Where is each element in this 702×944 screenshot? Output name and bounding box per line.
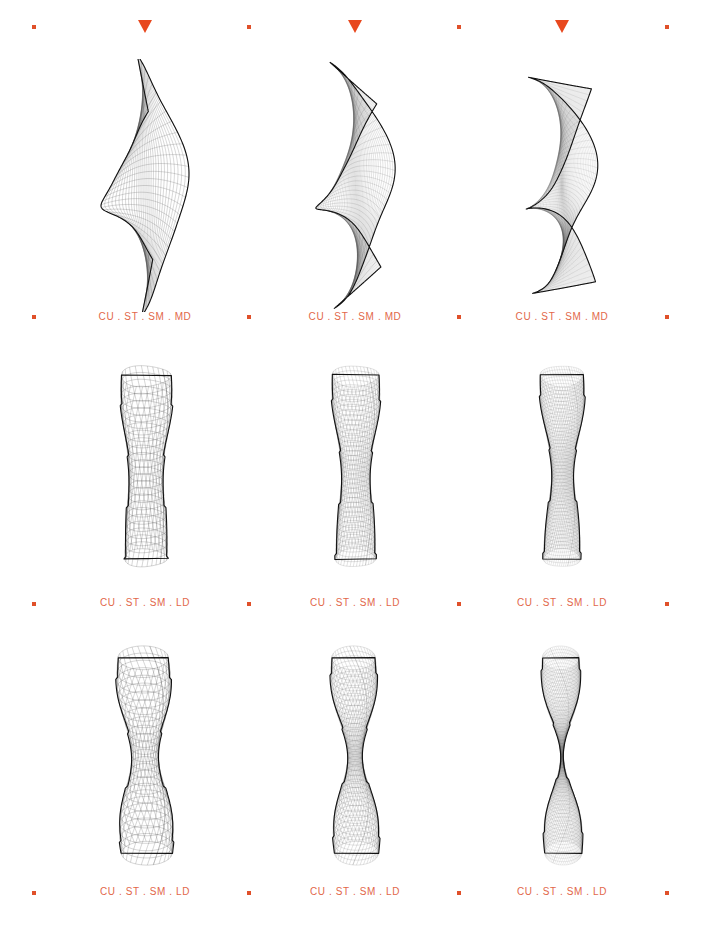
- dot-marker-icon: [32, 25, 36, 29]
- mesh-v-isolines: [331, 645, 379, 864]
- triangle-down-icon: [138, 20, 152, 33]
- mesh-figure-r2-c3: [510, 353, 614, 581]
- mesh-figure-r1-c1: [76, 59, 214, 312]
- dot-marker-icon: [247, 25, 251, 29]
- figure-caption: CU . ST . SM . LD: [310, 886, 400, 897]
- figure-caption: CU . ST . SM . LD: [517, 597, 607, 608]
- dot-marker-icon: [457, 25, 461, 29]
- figure-caption: CU . ST . SM . MD: [309, 311, 402, 322]
- mesh-v-isolines: [540, 366, 585, 566]
- mesh-v-isolines: [542, 645, 583, 864]
- mesh-figure-r2-c2: [300, 353, 410, 581]
- mesh-figure-r3-c2: [302, 634, 408, 877]
- figure-caption: CU . ST . SM . LD: [100, 597, 190, 608]
- mesh-v-isolines: [526, 77, 597, 293]
- caption-row: CU . ST . SM . LDCU . ST . SM . LDCU . S…: [0, 886, 702, 904]
- mesh-figure-r3-c3: [515, 634, 609, 877]
- figure-caption: CU . ST . SM . LD: [310, 597, 400, 608]
- figure-caption: CU . ST . SM . LD: [100, 886, 190, 897]
- figure-caption: CU . ST . SM . MD: [99, 311, 192, 322]
- mesh-figure-r1-c2: [289, 59, 422, 312]
- figure-caption: CU . ST . SM . LD: [517, 886, 607, 897]
- triangle-down-icon: [348, 20, 362, 33]
- marker-row: [0, 18, 702, 38]
- mesh-v-isolines: [315, 62, 394, 308]
- mesh-figure-r1-c3: [498, 59, 626, 312]
- mesh-figure-r2-c1: [87, 353, 203, 581]
- figure-sheet: CU . ST . SM . MDCU . ST . SM . MDCU . S…: [0, 0, 702, 944]
- figure-caption: CU . ST . SM . MD: [516, 311, 609, 322]
- caption-row: CU . ST . SM . LDCU . ST . SM . LDCU . S…: [0, 597, 702, 615]
- caption-row: CU . ST . SM . MDCU . ST . SM . MDCU . S…: [0, 311, 702, 329]
- triangle-down-icon: [555, 20, 569, 33]
- mesh-figure-r3-c1: [86, 634, 204, 877]
- dot-marker-icon: [665, 25, 669, 29]
